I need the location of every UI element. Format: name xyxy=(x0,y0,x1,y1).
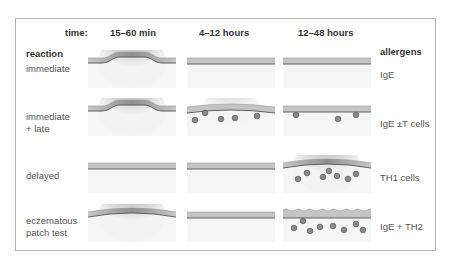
skin-panel xyxy=(283,155,371,193)
allergen-label-row-1: IgE xyxy=(380,69,394,81)
reaction-label-delayed: delayed xyxy=(26,170,59,182)
skin-panel xyxy=(283,204,371,242)
skin-panel xyxy=(283,98,371,136)
reaction-label-immediate: immediate xyxy=(26,63,70,75)
column-header-2: 4–12 hours xyxy=(199,27,249,38)
reaction-label-eczematous: eczematous patch test xyxy=(26,215,77,239)
skin-panel xyxy=(283,50,371,88)
allergen-label-row-3: TH1 cells xyxy=(380,172,420,184)
skin-panel xyxy=(88,155,176,193)
allergens-header: allergens xyxy=(380,46,422,58)
skin-panel xyxy=(88,98,176,136)
column-header-3: 12–48 hours xyxy=(298,27,353,38)
skin-panel xyxy=(187,204,275,242)
allergen-label-row-2: IgE ±T cells xyxy=(380,118,429,130)
allergen-label-row-4: IgE + TH2 xyxy=(380,221,423,233)
skin-panel xyxy=(187,155,275,193)
reaction-header: reaction xyxy=(26,48,63,60)
time-label: time: xyxy=(65,27,88,38)
skin-panel xyxy=(187,50,275,88)
skin-panel xyxy=(88,204,176,242)
column-header-1: 15–60 min xyxy=(110,27,156,38)
skin-panel xyxy=(187,98,275,136)
reaction-label-immediate-late: immediate + late xyxy=(26,111,70,135)
skin-panel xyxy=(88,50,176,88)
